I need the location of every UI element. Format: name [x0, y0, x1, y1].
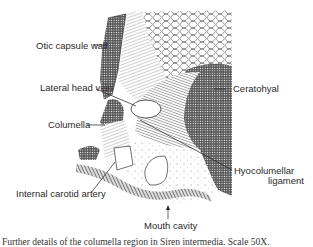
label-lateral-head-vein: Lateral head vein [40, 83, 113, 93]
label-internal-carotid-artery: Internal carotid artery [16, 189, 106, 199]
figure-caption: Further details of the columella region … [2, 237, 270, 247]
label-ceratohyal: Ceratohyal [233, 84, 279, 94]
label-columella: Columella [48, 120, 90, 130]
label-hyocolumellar-line2: ligament [268, 176, 304, 186]
label-otic-capsule-wall: Otic capsule wall [36, 41, 107, 51]
label-mouth-cavity: Mouth cavity [144, 221, 197, 231]
